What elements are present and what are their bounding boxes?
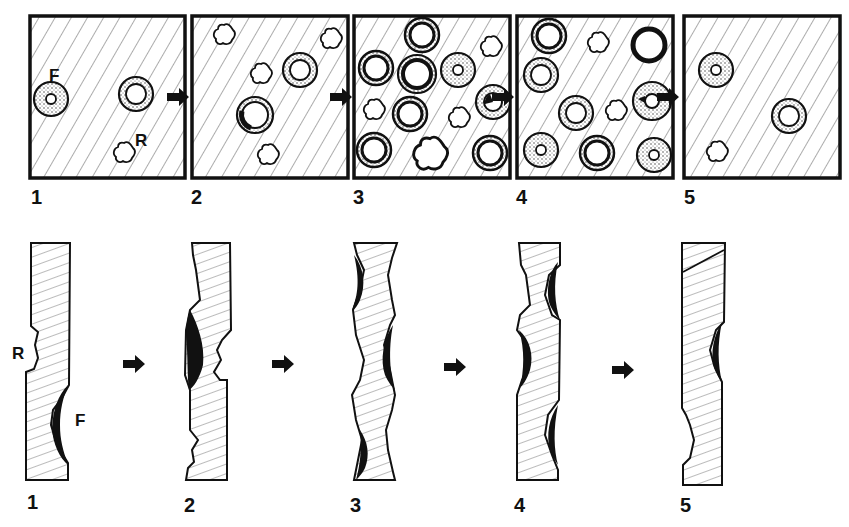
bottom-strip-3	[352, 243, 397, 480]
top-panel-5-number: 5	[684, 186, 695, 209]
top-panel-1	[30, 16, 185, 178]
bottom-strip-3-number: 3	[350, 494, 361, 517]
right-arrow-icon	[444, 358, 466, 376]
bottom-strip-2	[185, 243, 231, 480]
osteon	[580, 136, 614, 170]
top-panel-4-number: 4	[516, 186, 527, 209]
top-panel-1-number: 1	[31, 186, 42, 209]
osteon	[441, 53, 475, 87]
top-panel-3-number: 3	[353, 186, 364, 209]
osteon	[524, 58, 558, 92]
formation-osteon	[699, 53, 733, 87]
top-panel-5	[684, 16, 840, 178]
right-arrow-icon	[123, 355, 145, 373]
bottom-strip-5	[682, 243, 725, 485]
resorption-osteon	[119, 77, 153, 111]
bottom-strip-2-number: 2	[184, 494, 195, 517]
resorption-label: R	[12, 344, 24, 364]
top-panel-2	[192, 16, 348, 178]
top-panel-3	[354, 16, 510, 178]
resorption-label: R	[135, 131, 147, 151]
bottom-strip-1	[26, 243, 70, 480]
right-arrow-icon	[612, 361, 634, 379]
bottom-strip-5-number: 5	[680, 494, 691, 517]
osteon	[473, 136, 507, 170]
osteon	[559, 96, 593, 130]
top-panel-4	[517, 16, 673, 178]
resorption-cavity	[633, 29, 665, 61]
bottom-strip-1-number: 1	[27, 491, 38, 514]
formation-label: F	[75, 411, 85, 431]
osteon	[532, 19, 566, 53]
bottom-strip-4	[517, 243, 560, 480]
right-arrow-icon	[272, 355, 294, 373]
osteon	[283, 53, 317, 87]
osteon	[357, 133, 391, 167]
osteon	[393, 97, 427, 131]
bottom-strip-4-number: 4	[514, 494, 525, 517]
osteon	[359, 51, 393, 85]
bone-remodeling-diagram	[0, 0, 849, 527]
formation-osteon	[34, 82, 68, 116]
osteon	[637, 138, 671, 172]
resorption-cavity	[237, 97, 273, 133]
osteon	[524, 133, 558, 167]
resorption-cavity	[398, 55, 436, 93]
osteon	[772, 99, 806, 133]
osteon	[405, 18, 439, 52]
formation-label: F	[49, 66, 59, 86]
top-panel-2-number: 2	[191, 186, 202, 209]
